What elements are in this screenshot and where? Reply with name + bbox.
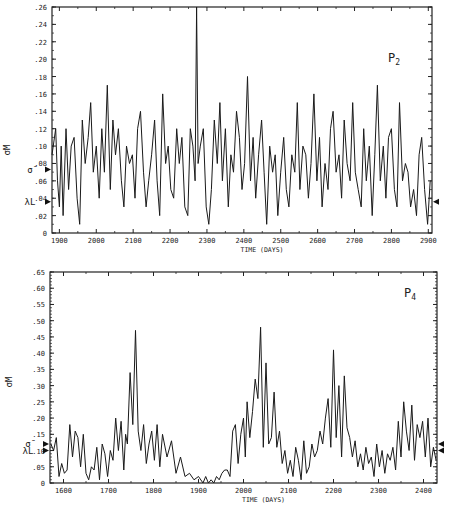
line-chart-p2: 0.02.04.06.08.10.12.14.16.18.20.22.24.26… xyxy=(0,0,463,262)
y-tick-label: 0 xyxy=(41,480,45,488)
x-tick-label: 2100 xyxy=(125,237,142,245)
y-tick-label: .12 xyxy=(34,126,47,134)
y-tick-label: .05 xyxy=(32,464,45,472)
y-tick-label: .10 xyxy=(34,143,47,151)
y-tick-label: 0 xyxy=(43,230,47,238)
y-tick-label: .15 xyxy=(32,431,45,439)
y-tick-label: .24 xyxy=(34,21,47,29)
x-tick-label: 1700 xyxy=(100,487,117,495)
level-marker-icon xyxy=(43,448,49,454)
x-tick-label: 2000 xyxy=(235,487,252,495)
x-axis-label: TIME (DAYS) xyxy=(242,496,285,504)
x-tick-label: 2600 xyxy=(309,237,326,245)
y-tick-label: .16 xyxy=(34,91,47,99)
y-tick-label: .30 xyxy=(32,383,45,391)
y-tick-label: .35 xyxy=(32,366,45,374)
x-tick-label: 2300 xyxy=(370,487,387,495)
x-tick-label: 2800 xyxy=(383,237,400,245)
level-label: λL xyxy=(23,446,34,456)
level-marker-right-icon xyxy=(438,448,444,454)
level-marker-icon xyxy=(43,441,49,447)
x-tick-label: 1600 xyxy=(55,487,72,495)
x-tick-label: 2200 xyxy=(325,487,342,495)
y-tick-label: .25 xyxy=(32,399,45,407)
panel-label-subscript: 2 xyxy=(395,58,400,67)
x-tick-label: 2400 xyxy=(235,237,252,245)
x-tick-label: 2100 xyxy=(280,487,297,495)
y-tick-label: .20 xyxy=(34,56,47,64)
y-tick-label: .40 xyxy=(32,350,45,358)
chart-panel-p2: 0.02.04.06.08.10.12.14.16.18.20.22.24.26… xyxy=(0,0,463,262)
level-marker-icon xyxy=(45,167,51,173)
level-marker-right-icon xyxy=(433,199,439,205)
y-tick-label: .55 xyxy=(32,301,45,309)
y-tick-label: .60 xyxy=(32,285,45,293)
x-tick-label: 2700 xyxy=(346,237,363,245)
level-marker-icon xyxy=(45,199,51,205)
y-axis: 0.05.10.15.20.25.30.35.40.45.50.55.60.65 xyxy=(32,269,437,488)
x-tick-label: 2500 xyxy=(272,237,289,245)
level-label: λL xyxy=(25,197,36,207)
panel-label: P4 xyxy=(404,286,416,302)
data-series-line xyxy=(51,327,436,483)
data-series-line xyxy=(52,7,430,224)
y-tick-label: .45 xyxy=(32,334,45,342)
y-tick-label: .22 xyxy=(34,39,47,47)
y-tick-label: .14 xyxy=(34,108,47,116)
y-tick-label: .20 xyxy=(32,415,45,423)
y-tick-label: .65 xyxy=(32,269,45,277)
y-tick-label: .50 xyxy=(32,318,45,326)
x-tick-label: 2300 xyxy=(199,237,216,245)
y-axis-label: σM xyxy=(4,376,14,387)
y-axis-label: σM xyxy=(2,144,12,155)
chart-panel-p4: 0.05.10.15.20.25.30.35.40.45.50.55.60.65… xyxy=(0,262,463,511)
plot-frame xyxy=(52,7,432,233)
panel-label: P2 xyxy=(388,51,400,67)
y-tick-label: .26 xyxy=(34,4,47,12)
x-tick-label: 1800 xyxy=(145,487,162,495)
y-tick-label: .02 xyxy=(34,213,47,221)
x-tick-label: 2000 xyxy=(88,237,105,245)
x-tick-label: 2400 xyxy=(415,487,432,495)
x-tick-label: 2200 xyxy=(162,237,179,245)
line-chart-p4: 0.05.10.15.20.25.30.35.40.45.50.55.60.65… xyxy=(0,262,463,511)
y-tick-label: .06 xyxy=(34,178,47,186)
x-tick-label: 1900 xyxy=(190,487,207,495)
plot-frame xyxy=(50,272,437,483)
x-axis-label: TIME (DAYS) xyxy=(240,246,283,254)
x-tick-label: 1900 xyxy=(51,237,68,245)
y-tick-label: .18 xyxy=(34,74,47,82)
level-marker-right-icon xyxy=(438,441,444,447)
panel-label-subscript: 4 xyxy=(411,293,416,302)
x-tick-label: 2900 xyxy=(420,237,437,245)
